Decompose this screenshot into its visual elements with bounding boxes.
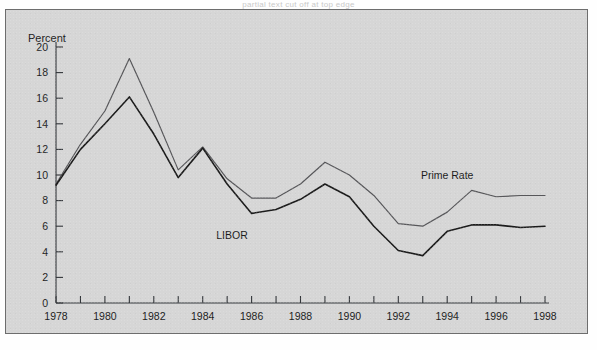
y-axis-tick-label: 8 [42,194,48,206]
x-axis-tick-label: 1982 [142,310,166,322]
x-axis-tick-label: 1992 [387,310,411,322]
chart-svg: 0246810121416182019781980198219841986198… [6,10,589,335]
x-axis-tick-label: 1994 [436,310,460,322]
y-axis-tick-label: 12 [36,143,48,155]
figure-page: partial text cut off at top edge Percent… [0,0,597,350]
series-line-prime-rate [56,59,545,227]
x-axis-tick-label: 1986 [240,310,264,322]
x-axis-tick-label: 1984 [191,310,215,322]
cut-off-caption: partial text cut off at top edge [0,0,597,9]
x-axis-tick-label: 1996 [484,310,508,322]
series-annotation-libor: LIBOR [216,229,248,241]
x-axis-tick-label: 1998 [533,310,557,322]
y-axis-tick-label: 16 [36,92,48,104]
x-axis-tick-label: 1988 [289,310,313,322]
x-axis-tick-label: 1980 [93,310,117,322]
y-axis-tick-label: 20 [36,41,48,53]
y-axis-tick-label: 2 [42,271,48,283]
y-axis-tick-label: 18 [36,66,48,78]
y-axis-tick-label: 10 [36,169,48,181]
y-axis-tick-label: 0 [42,297,48,309]
line-chart-plot: 0246810121416182019781980198219841986198… [6,10,589,335]
series-annotation-prime-rate: Prime Rate [421,169,474,181]
y-axis-tick-label: 6 [42,220,48,232]
x-axis-tick-label: 1990 [338,310,362,322]
y-axis-tick-label: 4 [42,246,48,258]
y-axis-tick-label: 14 [36,118,48,130]
x-axis-tick-label: 1978 [44,310,68,322]
chart-figure-panel: Percent 02468101214161820197819801982198… [5,9,588,334]
